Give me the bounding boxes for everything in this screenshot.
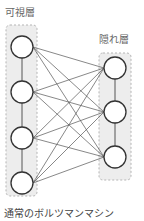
hidden-layer-label: 隠れ層: [99, 31, 129, 46]
hidden-node: [104, 146, 126, 168]
visible-node: [11, 127, 33, 149]
connection-edge: [33, 68, 104, 92]
connection-edge: [33, 47, 104, 68]
hidden-node: [104, 101, 126, 123]
visible-node: [11, 172, 33, 194]
diagram-caption: 通常のボルツマンマシン: [4, 205, 114, 220]
visible-node: [11, 81, 33, 103]
visible-layer-label: 可視層: [5, 4, 35, 19]
connection-edge: [33, 157, 104, 183]
hidden-node: [104, 57, 126, 79]
connection-edge: [33, 68, 104, 183]
visible-node: [11, 36, 33, 58]
connection-edge: [33, 68, 104, 138]
